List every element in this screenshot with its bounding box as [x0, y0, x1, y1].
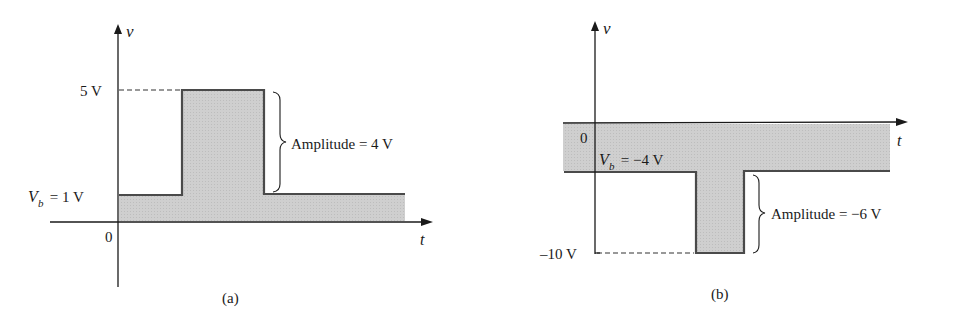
- origin-label-a: 0: [105, 229, 113, 245]
- x-axis-b: [563, 122, 899, 123]
- x-axis-label-a: t: [420, 231, 425, 248]
- x-axis-arrow-a: [421, 218, 433, 226]
- y-axis-arrow-a: [114, 24, 122, 34]
- svg-text:b: b: [609, 160, 615, 172]
- amplitude-brace-a: [273, 92, 286, 192]
- peak-label-a: 5 V: [80, 83, 102, 99]
- y-axis-arrow-b: [591, 21, 599, 31]
- svg-text:= −4 V: = −4 V: [617, 152, 663, 168]
- caption-b: (b): [711, 286, 729, 303]
- pulse-waveform-figure: v 5 V 0 t Amplitude = 4 V V b = 1 V (a) …: [0, 0, 961, 326]
- origin-label-b: 0: [580, 130, 588, 146]
- panel-b: v 0 t V b = −4 V –10 V Amplitude = −6 V …: [539, 19, 908, 303]
- x-axis-label-b: t: [897, 132, 902, 149]
- caption-a: (a): [222, 290, 239, 307]
- amplitude-label-a: Amplitude = 4 V: [291, 136, 393, 152]
- svg-text:b: b: [38, 197, 44, 209]
- amplitude-brace-b: [753, 175, 765, 253]
- amplitude-label-b: Amplitude = −6 V: [771, 206, 882, 222]
- x-axis-arrow-b: [896, 118, 908, 126]
- y-axis-label-b: v: [603, 19, 611, 38]
- waveform-b-fill: [563, 124, 890, 253]
- panel-a: v 5 V 0 t Amplitude = 4 V V b = 1 V (a): [28, 22, 433, 307]
- peak-label-b: –10 V: [539, 246, 577, 262]
- y-axis-label-a: v: [126, 22, 134, 41]
- baseline-label-a: V b = 1 V: [28, 188, 84, 209]
- svg-text:= 1 V: = 1 V: [46, 189, 84, 205]
- waveform-a-fill: [119, 90, 405, 221]
